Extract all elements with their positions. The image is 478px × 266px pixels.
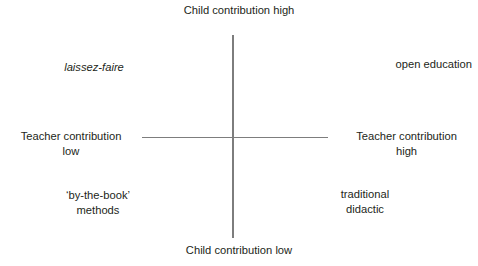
horizontal-axis-line (142, 137, 328, 138)
quadrant-label-traditional-didactic: traditional didactic (290, 187, 440, 217)
quadrant-label-open-education: open education (300, 57, 472, 72)
axis-label-teacher-contribution-low: Teacher contribution low (6, 129, 136, 159)
quadrant-diagram: Child contribution high Child contributi… (0, 0, 478, 266)
quadrant-label-by-the-book-methods: ‘by-the-book’ methods (10, 188, 186, 218)
quadrant-label-laissez-faire: laissez-faire (0, 60, 188, 75)
axis-label-child-contribution-low: Child contribution low (0, 243, 478, 258)
axis-label-child-contribution-high: Child contribution high (0, 3, 478, 18)
axis-label-teacher-contribution-high: Teacher contribution high (341, 129, 472, 159)
